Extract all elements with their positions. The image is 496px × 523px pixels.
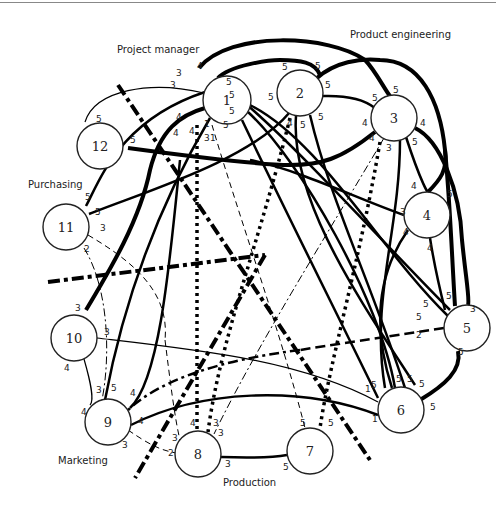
node-10[interactable]: 10 (51, 315, 97, 361)
group-label-product-engineering: Product engineering (350, 29, 451, 40)
edge-9-1b (130, 160, 180, 408)
edge-weight-label: 1 (372, 414, 378, 424)
edge-weight-label: 4 (403, 227, 409, 237)
edge-weight-label: 4 (138, 416, 144, 426)
edge-weight-label: 5 (325, 80, 331, 90)
group-label-production: Production (223, 477, 276, 488)
node-12-label: 12 (92, 139, 109, 154)
node-2-label: 2 (296, 86, 304, 101)
edge-weight-label: 5 (318, 112, 324, 122)
edge-weight-label: 5 (283, 462, 289, 472)
edge-2-3 (322, 96, 375, 108)
edge-weight-label: 4 (173, 128, 179, 138)
edge-5-dash (300, 328, 444, 350)
node-3-label: 3 (390, 111, 398, 126)
edge-weight-label: 5 (315, 61, 321, 71)
edge-weight-label: 4 (189, 126, 195, 136)
edge-weight-label: 3 (104, 327, 110, 337)
edge-weight-label: 4 (362, 118, 368, 128)
edge-weight-label: 5 (412, 137, 418, 147)
edge-weight-label: 3 (213, 418, 219, 428)
node-12[interactable]: 12 (77, 123, 123, 169)
edge-weight-label: 5 (430, 402, 436, 412)
node-6[interactable]: 6 (378, 387, 424, 433)
edge-weight-label: 5 (446, 291, 452, 301)
edge-weight-label: 3 (100, 223, 106, 233)
edge-weight-label: 3 (204, 133, 210, 143)
cut-line-2 (48, 255, 265, 282)
edge-weight-label: 3 (75, 303, 81, 313)
edge-weight-label: 3 (176, 68, 182, 78)
edge-weight-label: 5 (226, 77, 232, 87)
node-4-label: 4 (423, 208, 431, 223)
edge-weight-label: 2 (84, 244, 90, 254)
edge-weight-label: 4 (64, 363, 70, 373)
node-9-label: 9 (104, 415, 112, 430)
node-8[interactable]: 8 (175, 431, 221, 477)
edge-weight-label: 5 (328, 418, 334, 428)
edge-weight-label: 5 (458, 347, 464, 357)
edge-9-1 (105, 118, 210, 400)
group-label-project-manager: Project manager (117, 44, 200, 55)
edge-weight-label: 4 (427, 243, 433, 253)
edge-weight-label: 5 (85, 192, 91, 202)
edge-weight-label: 5 (300, 120, 306, 130)
edge-weight-label: 2 (416, 330, 422, 340)
node-2[interactable]: 2 (277, 70, 323, 116)
node-5[interactable]: 5 (444, 305, 490, 351)
edge-weight-label: 4 (81, 407, 87, 417)
edge-weight-label: 4 (287, 118, 293, 128)
node-6-label: 6 (397, 403, 405, 418)
edge-weight-label: 4 (176, 112, 182, 122)
edge-weight-label: 5 (95, 207, 101, 217)
edge-5-6 (420, 351, 459, 400)
edge-weight-label: 3 (172, 433, 178, 443)
edge-weight-label: 1 (204, 119, 210, 129)
edge-weight-label: 3 (225, 459, 231, 469)
edge-weight-label: 3 (400, 207, 406, 217)
edge-weight-label: 5 (268, 92, 274, 102)
node-9[interactable]: 9 (85, 399, 131, 445)
node-11[interactable]: 11 (43, 204, 89, 250)
edge-10-9 (84, 359, 92, 405)
group-label-marketing: Marketing (58, 455, 108, 466)
edge-weight-label: 5 (223, 120, 229, 130)
edge-weight-label: 5 (416, 312, 422, 322)
edge-weight-label: 5 (96, 114, 102, 124)
edge-weight-label: 5 (396, 374, 402, 384)
edge-weight-label: 5 (393, 85, 399, 95)
edge-9-6 (131, 395, 378, 425)
edge-weight-label: 3 (122, 440, 128, 450)
group-label-purchasing: Purchasing (28, 179, 83, 190)
edge-weight-label: 4 (411, 181, 417, 191)
edge-weight-label: 2 (168, 448, 174, 458)
edge-weight-label: 4 (369, 133, 375, 143)
node-10-label: 10 (66, 331, 83, 346)
edge-weight-label: 5 (407, 374, 413, 384)
edge-weight-label: 3 (170, 80, 176, 90)
edge-weight-label: 5 (447, 189, 453, 199)
edge-weight-label: 3 (96, 385, 102, 395)
node-4[interactable]: 4 (404, 192, 450, 238)
edge-weight-label: 5 (130, 135, 136, 145)
edge-weight-label: 5 (371, 380, 377, 390)
edge-weight-label: 4 (130, 388, 136, 398)
edge-weight-label: 4 (197, 61, 203, 71)
node-3[interactable]: 3 (371, 95, 417, 141)
edge-weight-label: 5 (300, 418, 306, 428)
edge-weight-label: 1 (210, 133, 216, 143)
edge-weight-label: 5 (229, 106, 235, 116)
edge-weight-label: 3 (470, 304, 476, 314)
edge-weight-label: 3 (386, 143, 392, 153)
cut-line-1 (118, 85, 370, 460)
network-diagram: 1 2 3 4 5 6 7 8 9 10 11 12 Project manag… (0, 0, 496, 523)
edge-weight-label: 5 (372, 93, 378, 103)
edge-weight-label: 5 (111, 383, 117, 393)
edge-weight-label: 5 (419, 379, 425, 389)
node-5-label: 5 (463, 321, 471, 336)
node-7[interactable]: 7 (287, 428, 333, 474)
node-7-label: 7 (306, 444, 314, 459)
node-11-label: 11 (58, 220, 75, 235)
edge-weight-label: 3 (218, 428, 224, 438)
edge-weight-label: 5 (423, 299, 429, 309)
